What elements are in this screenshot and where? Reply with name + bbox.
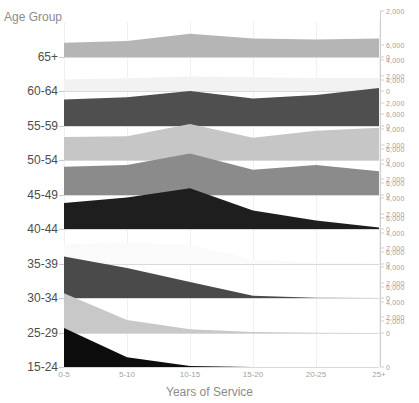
category-label-40-44: 40-44 bbox=[27, 222, 58, 236]
axis-tick: 6,000 bbox=[380, 180, 405, 187]
axis-tick: 6,000 bbox=[380, 214, 405, 221]
axis-tick: 2,000 bbox=[380, 318, 405, 325]
axis-tick-mark bbox=[380, 45, 384, 46]
axis-tick-label: 6,000 bbox=[386, 214, 405, 221]
series-panel bbox=[64, 321, 379, 367]
category-label-65plus: 65+ bbox=[38, 50, 58, 64]
x-tick-15-20: 15-20 bbox=[243, 370, 263, 379]
x-tick-0-5: 0-5 bbox=[58, 370, 70, 379]
axis-tick-mark bbox=[380, 198, 384, 199]
axis-tick: 4,000 bbox=[380, 195, 405, 202]
axis-tick-label: 6,000 bbox=[386, 145, 405, 152]
axis-tick-mark bbox=[380, 183, 384, 184]
x-axis-tick-labels: 0-55-1010-1515-2020-2525+ bbox=[64, 370, 379, 382]
x-tick-25+: 25+ bbox=[372, 370, 386, 379]
axis-tick-label: 4,000 bbox=[386, 264, 405, 271]
axis-tick-label: 0 bbox=[386, 364, 390, 371]
axis-tick-label: 4,000 bbox=[386, 57, 405, 64]
axis-tick-mark bbox=[380, 60, 384, 61]
category-label-15-24: 15-24 bbox=[27, 360, 58, 374]
axis-tick-mark bbox=[380, 286, 384, 287]
axis-tick-label: 6,000 bbox=[386, 283, 405, 290]
category-label-50-54: 50-54 bbox=[27, 153, 58, 167]
axis-tick: 6,000 bbox=[380, 42, 405, 49]
axis-tick-label: 6,000 bbox=[386, 180, 405, 187]
axis-tick-label: 2,000 bbox=[386, 7, 405, 14]
axis-spine bbox=[380, 321, 381, 367]
axis-tick: 4,000 bbox=[380, 57, 405, 64]
category-label-55-59: 55-59 bbox=[27, 119, 58, 133]
axis-tick: 6,000 bbox=[380, 111, 405, 118]
axis-tick: 6,000 bbox=[380, 283, 405, 290]
axis-tick-label: 2,000 bbox=[386, 99, 405, 106]
axis-tick-label: 6,000 bbox=[386, 249, 405, 256]
x-tick-10-15: 10-15 bbox=[180, 370, 200, 379]
axis-tick-label: 6,000 bbox=[386, 111, 405, 118]
value-axis-15-24: 02,000 bbox=[380, 321, 419, 367]
ridgeline-chart: Age Group 65+60-6455-5950-5445-4940-4435… bbox=[0, 0, 419, 403]
category-label-30-34: 30-34 bbox=[27, 291, 58, 305]
axis-tick-mark bbox=[380, 102, 384, 103]
axis-tick-mark bbox=[380, 114, 384, 115]
axis-tick-label: 4,000 bbox=[386, 229, 405, 236]
x-tick-20-25: 20-25 bbox=[306, 370, 326, 379]
axis-tick-mark bbox=[380, 217, 384, 218]
category-label-column: 65+60-6455-5950-5445-4940-4435-3930-3425… bbox=[0, 22, 58, 367]
category-label-25-29: 25-29 bbox=[27, 326, 58, 340]
category-label-60-64: 60-64 bbox=[27, 84, 58, 98]
axis-tick-mark bbox=[380, 267, 384, 268]
axis-tick-mark bbox=[380, 232, 384, 233]
category-label-45-49: 45-49 bbox=[27, 188, 58, 202]
axis-tick-label: 4,000 bbox=[386, 195, 405, 202]
axis-tick-label: 4,000 bbox=[386, 160, 405, 167]
axis-tick-mark bbox=[380, 79, 384, 80]
panel-baseline bbox=[64, 367, 379, 368]
axis-tick-label: 4,000 bbox=[386, 76, 405, 83]
axis-tick: 2,000 bbox=[380, 7, 405, 14]
plot-area bbox=[64, 22, 379, 367]
axis-tick-mark bbox=[380, 301, 384, 302]
axis-tick: 4,000 bbox=[380, 76, 405, 83]
axis-tick: 4,000 bbox=[380, 264, 405, 271]
axis-tick-label: 2,000 bbox=[386, 318, 405, 325]
axis-tick: 4,000 bbox=[380, 160, 405, 167]
axis-tick-mark bbox=[380, 129, 384, 130]
axis-tick-mark bbox=[380, 367, 384, 368]
axis-tick-mark bbox=[380, 10, 384, 11]
x-axis-title: Years of Service bbox=[0, 385, 419, 399]
axis-tick-label: 4,000 bbox=[386, 298, 405, 305]
axis-tick-mark bbox=[380, 252, 384, 253]
area-shape bbox=[64, 321, 379, 367]
axis-tick: 2,000 bbox=[380, 99, 405, 106]
x-tick-5-10: 5-10 bbox=[119, 370, 135, 379]
axis-tick: 4,000 bbox=[380, 126, 405, 133]
axis-tick: 6,000 bbox=[380, 249, 405, 256]
axis-tick-mark bbox=[380, 163, 384, 164]
axis-tick: 6,000 bbox=[380, 145, 405, 152]
axis-tick-mark bbox=[380, 321, 384, 322]
axis-tick: 4,000 bbox=[380, 229, 405, 236]
axis-tick-label: 4,000 bbox=[386, 126, 405, 133]
value-axis-column: 02,00002,0004,0006,00002,0004,00002,0004… bbox=[380, 22, 419, 367]
category-label-35-39: 35-39 bbox=[27, 257, 58, 271]
axis-tick-label: 6,000 bbox=[386, 42, 405, 49]
axis-tick: 4,000 bbox=[380, 298, 405, 305]
axis-tick-mark bbox=[380, 148, 384, 149]
